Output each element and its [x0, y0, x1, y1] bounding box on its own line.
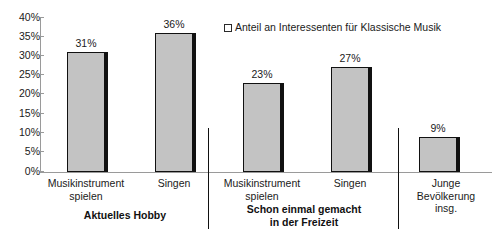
- chart-legend: Anteil an Interessenten für Klassische M…: [224, 22, 441, 33]
- y-tick-mark: [40, 132, 44, 133]
- y-tick-30: 30%: [0, 50, 40, 60]
- y-tick-40: 40%: [0, 12, 40, 22]
- y-tick-label: 25%: [4, 69, 40, 79]
- category-label-line: insg.: [400, 202, 492, 215]
- category-label-line: Junge: [400, 177, 492, 190]
- x-axis-line: [40, 172, 492, 173]
- y-tick-5: 5%: [0, 146, 40, 156]
- y-tick-15: 15%: [0, 108, 40, 118]
- y-tick-mark: [40, 55, 44, 56]
- y-tick-mark: [40, 93, 44, 94]
- group-title-aktuelles-hobby: Aktuelles Hobby: [45, 209, 205, 222]
- y-tick-mark: [40, 113, 44, 114]
- y-tick-label: 30%: [4, 50, 40, 60]
- square-outline-icon: [224, 24, 232, 32]
- category-label-line: Singen: [300, 177, 400, 190]
- group-title-line: in der Freizeit: [215, 216, 393, 229]
- bar-musikinstrument-spielen-freizeit: [243, 83, 281, 172]
- bar-value-label: 23%: [233, 69, 291, 80]
- bar-value-label: 27%: [321, 53, 379, 64]
- y-tick-label: 5%: [4, 146, 40, 156]
- category-label-junge-bevoelkerung: Junge Bevölkerung insg.: [400, 177, 492, 215]
- category-label-line: spielen: [198, 190, 326, 203]
- y-tick-10: 10%: [0, 127, 40, 137]
- group-title-schon-einmal-gemacht: Schon einmal gemacht in der Freizeit: [215, 203, 393, 228]
- y-tick-mark: [40, 36, 44, 37]
- group-title-line: Schon einmal gemacht: [215, 203, 393, 216]
- y-tick-label: 15%: [4, 108, 40, 118]
- bar-junge-bevoelkerung: [419, 137, 457, 172]
- bar-value-label: 31%: [57, 38, 115, 49]
- y-tick-20: 20%: [0, 88, 40, 98]
- bar-singen-hobby: [155, 33, 193, 172]
- y-tick-mark: [40, 74, 44, 75]
- category-label-line: Bevölkerung: [400, 190, 492, 203]
- bar-musikinstrument-spielen-hobby: [67, 52, 105, 172]
- bar-value-label: 9%: [409, 123, 467, 134]
- y-axis-line: [40, 17, 41, 172]
- group-title-line: Aktuelles Hobby: [45, 209, 205, 222]
- y-tick-label: 40%: [4, 12, 40, 22]
- y-tick-mark: [40, 151, 44, 152]
- y-tick-label: 20%: [4, 88, 40, 98]
- y-tick-25: 25%: [0, 69, 40, 79]
- bar-chart: 40% 35% 30% 25% 20% 15% 10% 5% 0% 31% 36…: [0, 0, 492, 242]
- bar-singen-freizeit: [331, 67, 369, 172]
- y-tick-0: 0%: [0, 166, 40, 176]
- category-label-singen-freizeit: Singen: [300, 177, 400, 190]
- y-tick-mark: [40, 17, 44, 18]
- y-tick-label: 10%: [4, 127, 40, 137]
- y-tick-35: 35%: [0, 31, 40, 41]
- category-label-line: spielen: [22, 190, 150, 203]
- y-tick-label: 35%: [4, 31, 40, 41]
- legend-label: Anteil an Interessenten für Klassische M…: [235, 22, 441, 33]
- y-tick-label: 0%: [4, 166, 40, 176]
- bar-value-label: 36%: [145, 19, 203, 30]
